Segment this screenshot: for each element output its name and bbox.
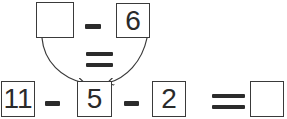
top-right-box: 6 [116, 3, 150, 38]
top-left-answer-box[interactable] [36, 2, 74, 38]
result-answer-box[interactable] [250, 81, 284, 117]
bottom-minus-sign-1 [45, 101, 60, 106]
top-minus-sign [85, 24, 101, 29]
arrow-right-curve [108, 38, 147, 83]
arrow-left-curve [42, 38, 84, 83]
bottom-equals-top-bar [212, 94, 245, 98]
middle-equals-bottom-bar [86, 63, 113, 67]
bottom-minus-sign-2 [124, 101, 139, 106]
middle-equals-top-bar [86, 52, 113, 56]
bottom-box-11: 11 [1, 81, 35, 117]
bottom-box-2: 2 [152, 81, 186, 117]
bottom-box-5: 5 [77, 81, 112, 117]
bottom-equals-bottom-bar [212, 105, 245, 109]
